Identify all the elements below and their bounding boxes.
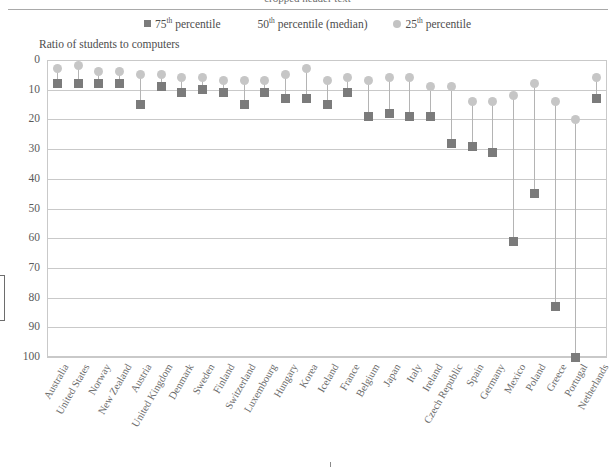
gridline [47,238,607,239]
marker-p75[interactable] [468,142,477,151]
marker-p25[interactable] [240,76,249,85]
legend-circle-icon [393,20,401,28]
marker-p25[interactable] [323,76,332,85]
legend-item-p25: 25th percentile [393,16,471,30]
y-tick-label: 10 [2,84,40,96]
marker-p75[interactable] [323,100,332,109]
marker-p75[interactable] [198,85,207,94]
y-tick-label: 50 [2,203,40,215]
y-tick-label: 60 [2,232,40,244]
marker-p25[interactable] [219,76,228,85]
y-tick-label: 30 [2,143,40,155]
marker-p25[interactable] [468,97,477,106]
y-tick-label: 40 [2,173,40,185]
y-axis-title: Ratio of students to computers [39,38,180,50]
y-tick-label: 70 [2,262,40,274]
legend-square-icon [144,20,151,27]
marker-p75[interactable] [530,189,539,198]
connector-line [492,102,493,152]
connector-line [451,87,452,143]
marker-p75[interactable] [405,112,414,121]
gridline [47,119,607,120]
plot-area [47,60,607,357]
marker-p75[interactable] [177,88,186,97]
gridline [47,327,607,328]
marker-p75[interactable] [488,148,497,157]
y-tick-label: 0 [2,54,40,66]
y-axis-tick-labels: 0102030405060708090100 [0,60,44,357]
connector-line [472,102,473,147]
y-tick-label: 20 [2,113,40,125]
y-tick-label: 90 [2,321,40,333]
connector-line [409,78,410,117]
gridline [47,268,607,269]
connector-line [534,84,535,194]
marker-p75[interactable] [260,88,269,97]
marker-p75[interactable] [509,237,518,246]
marker-p75[interactable] [592,94,601,103]
y-tick-label: 100 [2,351,40,363]
gridline [47,149,607,150]
cropped-header-text: — cropped header text — [0,0,615,4]
connector-line [513,96,514,242]
legend-label-p50: 50th percentile (median) [258,16,368,30]
x-tick-label-text: Spain [464,362,485,388]
marker-p75[interactable] [385,109,394,118]
marker-p75[interactable] [94,79,103,88]
marker-p75[interactable] [136,100,145,109]
x-tick-label-text: Japan [381,362,402,388]
legend-label-p75: 75th percentile [155,16,221,30]
x-axis-tick-labels: AustraliaUnited StatesNorwayNew ZealandA… [47,362,607,467]
legend-item-p75: 75th percentile [144,16,221,30]
connector-line [575,119,576,357]
marker-p75[interactable] [302,94,311,103]
marker-p25[interactable] [157,70,166,79]
y-tick-label: 80 [2,292,40,304]
connector-line [555,102,556,307]
marker-p75[interactable] [115,79,124,88]
marker-p75[interactable] [281,94,290,103]
legend-label-p25: 25th percentile [405,16,471,30]
marker-p25[interactable] [551,97,560,106]
marker-p75[interactable] [240,100,249,109]
x-tick-label-text: Italy [404,362,423,384]
gridline [47,209,607,210]
marker-p75[interactable] [343,88,352,97]
chart-legend: 75th percentile 50th percentile (median)… [0,14,615,32]
bottom-axis-tick [330,462,331,467]
marker-p75[interactable] [364,112,373,121]
marker-p75[interactable] [53,79,62,88]
marker-p75[interactable] [157,82,166,91]
marker-p75[interactable] [74,79,83,88]
marker-p75[interactable] [447,139,456,148]
cropped-header-sliver: — cropped header text — [0,0,615,9]
marker-p25[interactable] [385,73,394,82]
header-divider [8,9,608,10]
legend-item-p50: 50th percentile (median) [247,16,368,30]
marker-p75[interactable] [551,302,560,311]
gridline [47,179,607,180]
gridline [47,298,607,299]
marker-p75[interactable] [219,88,228,97]
marker-p75[interactable] [426,112,435,121]
